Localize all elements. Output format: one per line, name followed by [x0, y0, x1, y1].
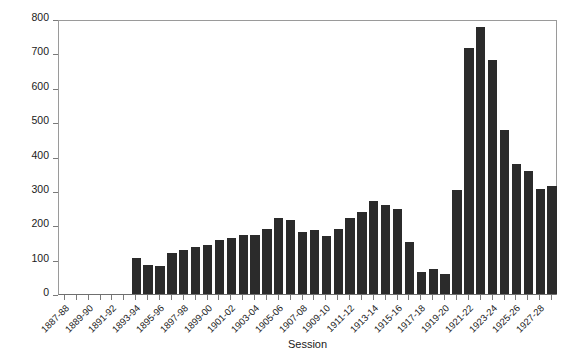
y-axis-tick-label: 100 [31, 253, 49, 264]
y-axis-tick-label: 500 [31, 115, 49, 126]
x-axis-tick-mark [100, 295, 101, 300]
x-axis-tick-mark [88, 295, 89, 300]
y-axis: 0100200300400500600700800 [0, 20, 58, 295]
y-axis-tick-label: 400 [31, 150, 49, 161]
x-axis-tick-mark [135, 295, 136, 300]
x-axis-tick-mark [171, 295, 172, 300]
bar [536, 189, 545, 294]
x-axis-tick-mark [397, 295, 398, 300]
bar-chart: 0100200300400500600700800 1887-881889-90… [0, 0, 581, 356]
x-axis-tick-mark [183, 295, 184, 300]
x-axis-tick-mark [408, 295, 409, 300]
bar [250, 235, 259, 294]
y-axis-tick-label: 800 [31, 12, 49, 23]
x-axis-tick-mark [207, 295, 208, 300]
bar [500, 130, 509, 294]
bar [215, 240, 224, 294]
y-axis-tick-label: 300 [31, 184, 49, 195]
bar [476, 27, 485, 294]
bar [203, 245, 212, 294]
bar [547, 186, 556, 294]
x-axis-tick-mark [504, 295, 505, 300]
bar [179, 250, 188, 294]
bar [155, 266, 164, 294]
x-axis-tick-mark [373, 295, 374, 300]
bar [488, 60, 497, 294]
x-axis-tick-mark [278, 295, 279, 300]
x-axis-tick-mark [420, 295, 421, 300]
x-axis-tick-mark [76, 295, 77, 300]
plot-area [58, 20, 557, 295]
bar [417, 272, 426, 294]
y-axis-tick-label: 200 [31, 218, 49, 229]
bar [452, 190, 461, 294]
x-axis-tick-mark [123, 295, 124, 300]
bar [286, 220, 295, 294]
x-axis-tick-mark [456, 295, 457, 300]
bar [334, 229, 343, 294]
y-axis-tick-label: 600 [31, 81, 49, 92]
x-axis-tick-mark [468, 295, 469, 300]
x-axis-tick-mark [230, 295, 231, 300]
x-axis-tick-mark [349, 295, 350, 300]
bar [357, 212, 366, 294]
bar [512, 164, 521, 294]
bar [322, 236, 331, 294]
bar [429, 269, 438, 294]
y-axis-tick-label: 0 [43, 287, 49, 298]
bar [132, 258, 141, 294]
x-axis-tick-mark [527, 295, 528, 300]
x-axis-tick-mark [313, 295, 314, 300]
bar [381, 205, 390, 294]
bar [262, 229, 271, 294]
x-axis-title: Session [58, 338, 557, 350]
bar [393, 209, 402, 294]
x-axis-tick-mark [515, 295, 516, 300]
bars-layer [59, 21, 556, 294]
x-axis-tick-mark [266, 295, 267, 300]
bar [143, 265, 152, 294]
x-axis-tick-mark [302, 295, 303, 300]
bar [227, 238, 236, 294]
x-axis-tick-mark [551, 295, 552, 300]
y-axis-tick-label: 700 [31, 46, 49, 57]
x-axis-tick-mark [242, 295, 243, 300]
bar [239, 235, 248, 294]
bar [524, 171, 533, 294]
bar [345, 218, 354, 294]
x-axis-tick-mark [218, 295, 219, 300]
x-axis-tick-mark [64, 295, 65, 300]
bar [369, 201, 378, 295]
x-axis-tick-mark [159, 295, 160, 300]
bar [405, 242, 414, 294]
x-axis-tick-mark [492, 295, 493, 300]
bar [191, 247, 200, 294]
bar [464, 48, 473, 294]
bar [274, 218, 283, 294]
bar [167, 253, 176, 294]
x-axis-tick-mark [361, 295, 362, 300]
x-axis-tick-mark [147, 295, 148, 300]
x-axis-tick-mark [432, 295, 433, 300]
x-axis-tick-mark [290, 295, 291, 300]
x-axis-tick-mark [254, 295, 255, 300]
x-axis-tick-mark [480, 295, 481, 300]
x-axis-tick-mark [337, 295, 338, 300]
x-axis-tick-mark [325, 295, 326, 300]
x-axis-tick-mark [111, 295, 112, 300]
bar [310, 230, 319, 294]
x-axis-tick-mark [539, 295, 540, 300]
x-axis-tick-mark [195, 295, 196, 300]
bar [440, 274, 449, 294]
bar [298, 232, 307, 294]
x-axis-tick-mark [444, 295, 445, 300]
x-axis-tick-mark [385, 295, 386, 300]
